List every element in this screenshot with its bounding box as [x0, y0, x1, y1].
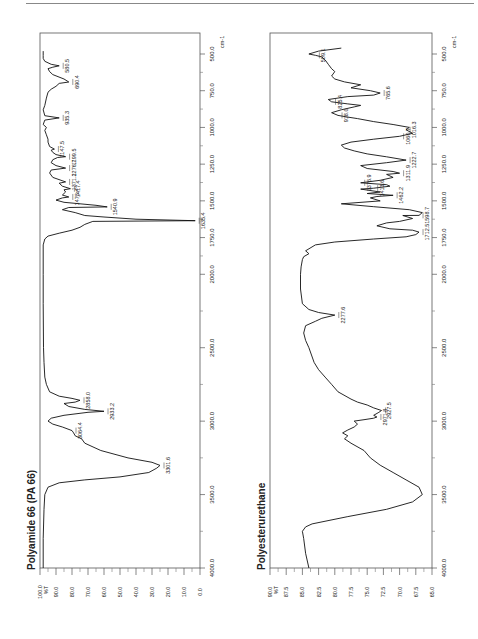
peak-label: 1635.4	[200, 212, 206, 229]
y-tick-label: 10.0	[181, 587, 187, 598]
y-tick-label: 80.0	[69, 587, 75, 598]
peak-label: 825.4	[337, 95, 343, 109]
y-tick-label: 40.0	[133, 587, 139, 598]
x-tick-label: 4000.0	[441, 558, 447, 577]
y-tick-label: 82.5	[316, 587, 322, 598]
peak-label: 3301.6	[165, 457, 171, 474]
x-tick-label: 1750.0	[441, 228, 447, 247]
x-tick-label: 4000.0	[209, 558, 215, 577]
peak-label: 3064.4	[77, 422, 83, 439]
y-tick-label: 85.0	[299, 587, 305, 598]
peak-label: 1060.7	[405, 128, 411, 145]
peak-label: 765.6	[385, 86, 391, 100]
y-tick-label: 77.5	[348, 587, 354, 598]
peak-label: 1598.7	[424, 207, 430, 224]
peak-label: 1311.9	[405, 165, 411, 181]
peak-label: 2927.5	[386, 402, 392, 419]
peak-label: 690.4	[74, 75, 80, 89]
x-tick-label: 3000.0	[441, 411, 447, 430]
x-tick-label: 500.0	[209, 46, 215, 62]
y-tick-label: 60.0	[101, 587, 107, 598]
peak-label: 2858.0	[85, 392, 91, 409]
x-tick-label: 3500.0	[209, 485, 215, 504]
x-tick-label: 1000.0	[209, 118, 215, 137]
y-tick-label: 0.0	[197, 588, 203, 596]
y-tick-label: 75.0	[364, 587, 370, 598]
y-tick-label: 70.0	[85, 587, 91, 598]
chart-title: Polyamide 66 (PA 66)	[26, 470, 37, 570]
pa66-spectrum-chart: 4000.03500.03000.02500.02000.01750.01500…	[26, 33, 225, 599]
peak-label: 509.1	[320, 48, 326, 62]
peak-label: 935.3	[64, 111, 70, 125]
x-tick-label: 3000.0	[209, 411, 215, 430]
spectra-page: 4000.03500.03000.02500.02000.01750.01500…	[0, 0, 478, 639]
peak-label: 580.5	[64, 59, 70, 73]
spectrum-line	[301, 48, 423, 568]
y-tick-label: 70.0	[397, 587, 403, 598]
peak-label: 1712.5	[424, 224, 430, 241]
plot-frame	[270, 33, 432, 568]
x-axis-unit: cm-1	[451, 36, 457, 48]
y-tick-label: 67.5	[413, 587, 419, 598]
peak-label: 1147.5	[59, 141, 65, 157]
peak-label: 2933.2	[109, 403, 115, 420]
peak-label: 1016.3	[411, 121, 417, 138]
x-tick-label: 3500.0	[441, 485, 447, 504]
peak-label: 1413.6	[379, 180, 385, 197]
polyesterurethane-spectrum-chart: 4000.03500.03000.02500.02000.01750.01500…	[256, 33, 457, 597]
peak-label: 918.0	[343, 109, 349, 123]
chart-title: Polyesterurethane	[256, 482, 267, 570]
x-tick-label: 1500.0	[441, 191, 447, 210]
y-tick-label: 50.0	[117, 587, 123, 598]
peak-label: 1199.5	[71, 149, 77, 165]
x-tick-label: 1250.0	[209, 154, 215, 173]
x-axis-unit: cm-1	[219, 36, 225, 48]
y-tick-label: 30.0	[149, 587, 155, 598]
peak-label: 1222.7	[411, 152, 417, 169]
y-tick-label: 87.5	[283, 587, 289, 598]
x-tick-label: 2500.0	[209, 338, 215, 357]
y-axis-label: %T	[273, 585, 279, 594]
peak-label: 2277.6	[340, 307, 346, 324]
x-tick-label: 750.0	[441, 83, 447, 99]
x-tick-label: 1500.0	[209, 191, 215, 210]
x-tick-label: 1250.0	[441, 154, 447, 173]
y-tick-label: 90.0	[53, 587, 59, 598]
y-tick-label: 72.5	[380, 587, 386, 598]
peak-label: 1376.9	[366, 174, 372, 191]
x-tick-label: 1000.0	[441, 118, 447, 137]
x-tick-label: 500.0	[441, 46, 447, 62]
x-tick-label: 2000.0	[209, 264, 215, 283]
x-tick-label: 2000.0	[441, 264, 447, 283]
x-tick-label: 2500.0	[441, 338, 447, 357]
y-tick-label: 65.0	[429, 587, 435, 598]
y-axis-label: %T	[43, 585, 49, 594]
y-tick-label: 80.0	[332, 587, 338, 598]
peak-label: 1462.2	[398, 187, 404, 204]
x-tick-label: 1750.0	[209, 228, 215, 247]
spectrum-line	[43, 51, 195, 568]
y-tick-label: 20.0	[165, 587, 171, 598]
x-tick-label: 750.0	[209, 83, 215, 99]
peak-label: 1540.9	[112, 198, 118, 215]
